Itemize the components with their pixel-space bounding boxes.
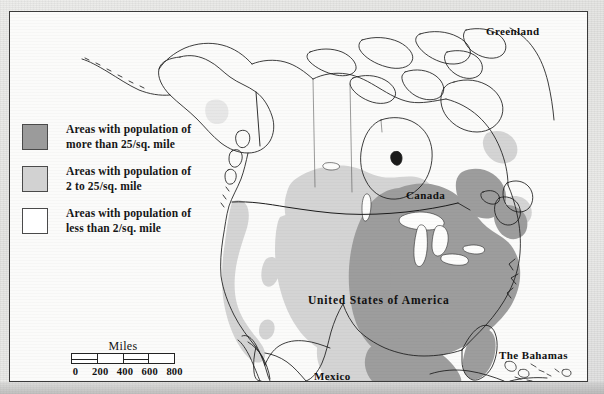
map-label-canada: Canada bbox=[406, 189, 445, 201]
scalebar-tick-0: 0 bbox=[63, 366, 88, 377]
map-label-bahamas: The Bahamas bbox=[499, 349, 568, 361]
scalebar-labels: 0 200 400 600 800 bbox=[63, 366, 187, 377]
legend-label-low-density-line1: Areas with population of bbox=[66, 206, 191, 221]
legend-label-high-density-line1: Areas with population of bbox=[66, 122, 191, 137]
legend-label-high-density: Areas with population of more than 25/sq… bbox=[66, 122, 191, 152]
scalebar-tick-400: 400 bbox=[113, 366, 138, 377]
legend-swatch-medium-density bbox=[22, 166, 48, 192]
legend-swatch-low-density bbox=[22, 208, 48, 234]
map-label-united-states: United States of America bbox=[308, 294, 450, 306]
legend-label-medium-density-line2: 2 to 25/sq. mile bbox=[66, 179, 191, 194]
map-label-greenland: Greenland bbox=[486, 25, 540, 37]
legend-label-low-density: Areas with population of less than 2/sq.… bbox=[66, 206, 191, 236]
scalebar-tick-600: 600 bbox=[137, 366, 162, 377]
scalebar-bar bbox=[71, 353, 175, 364]
legend-item-low-density: Areas with population of less than 2/sq.… bbox=[22, 206, 222, 236]
legend-label-medium-density-line1: Areas with population of bbox=[66, 164, 191, 179]
map-frame: Greenland Canada United States of Americ… bbox=[9, 11, 588, 382]
scalebar-segment-3 bbox=[124, 354, 150, 363]
legend-item-high-density: Areas with population of more than 25/sq… bbox=[22, 122, 222, 152]
map-scalebar: Miles 0 200 400 600 800 bbox=[65, 339, 195, 377]
legend-item-medium-density: Areas with population of 2 to 25/sq. mil… bbox=[22, 164, 222, 194]
scalebar-segment-2 bbox=[98, 354, 124, 363]
scalebar-segment-4 bbox=[149, 354, 174, 363]
map-label-mexico: Mexico bbox=[314, 370, 351, 382]
scalebar-title: Miles bbox=[73, 339, 173, 353]
legend-label-medium-density: Areas with population of 2 to 25/sq. mil… bbox=[66, 164, 191, 194]
legend-label-low-density-line2: less than 2/sq. mile bbox=[66, 221, 191, 236]
map-legend: Areas with population of more than 25/sq… bbox=[22, 122, 222, 248]
legend-swatch-high-density bbox=[22, 124, 48, 150]
scalebar-tick-200: 200 bbox=[88, 366, 113, 377]
scalebar-segment-1 bbox=[72, 354, 98, 363]
scalebar-tick-800: 800 bbox=[162, 366, 187, 377]
map-page: Greenland Canada United States of Americ… bbox=[0, 0, 604, 394]
legend-label-high-density-line2: more than 25/sq. mile bbox=[66, 137, 191, 152]
